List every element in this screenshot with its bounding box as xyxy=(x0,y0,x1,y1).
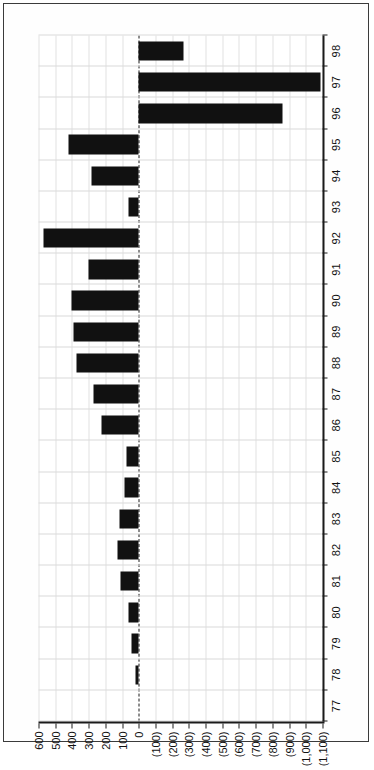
bar-92 xyxy=(43,228,138,247)
value-label-wrap: (100) xyxy=(149,731,161,770)
category-label-79: 79 xyxy=(329,627,341,658)
value-label-300: 300 xyxy=(82,731,94,749)
value-tick xyxy=(289,723,290,728)
value-tick xyxy=(322,723,323,728)
value-label--1100: (1,100) xyxy=(316,731,328,766)
value-label-wrap: (900) xyxy=(283,731,295,770)
value-label-600: 600 xyxy=(32,731,44,749)
category-tick xyxy=(322,408,327,409)
category-tick xyxy=(322,346,327,347)
value-label-wrap: (800) xyxy=(266,731,278,770)
value-tick xyxy=(188,723,189,728)
value-label--500: (500) xyxy=(216,731,228,757)
bar-86 xyxy=(101,415,138,434)
category-label-78: 78 xyxy=(329,659,341,690)
category-label-90: 90 xyxy=(329,284,341,315)
value-label-wrap: 100 xyxy=(116,731,128,770)
value-label--400: (400) xyxy=(199,731,211,757)
value-label-wrap: 400 xyxy=(65,731,77,770)
value-label-wrap: 0 xyxy=(132,731,144,770)
category-gridline xyxy=(38,439,322,440)
bar-97 xyxy=(138,72,320,91)
category-label-89: 89 xyxy=(329,316,341,347)
category-tick xyxy=(322,128,327,129)
category-label-98: 98 xyxy=(329,35,341,66)
category-label-93: 93 xyxy=(329,191,341,222)
category-label-96: 96 xyxy=(329,97,341,128)
value-label-200: 200 xyxy=(99,731,111,749)
category-gridline xyxy=(38,346,322,347)
value-tick xyxy=(138,723,139,728)
category-gridline xyxy=(38,377,322,378)
value-label--300: (300) xyxy=(182,731,194,757)
value-label--100: (100) xyxy=(149,731,161,757)
category-tick xyxy=(322,564,327,565)
category-label-94: 94 xyxy=(329,160,341,191)
value-label-0: 0 xyxy=(132,731,144,737)
value-label--900: (900) xyxy=(283,731,295,757)
value-label-wrap: (1,100) xyxy=(316,731,328,770)
category-label-83: 83 xyxy=(329,503,341,534)
value-label--200: (200) xyxy=(166,731,178,757)
value-tick xyxy=(155,723,156,728)
category-gridline xyxy=(38,533,322,534)
value-label--800: (800) xyxy=(266,731,278,757)
value-tick xyxy=(255,723,256,728)
category-tick xyxy=(322,626,327,627)
category-gridline xyxy=(38,221,322,222)
value-label--700: (700) xyxy=(249,731,261,757)
bar-87 xyxy=(93,384,138,403)
bar-98 xyxy=(138,41,182,60)
category-tick xyxy=(322,502,327,503)
value-tick xyxy=(238,723,239,728)
category-label-77: 77 xyxy=(329,690,341,721)
category-label-88: 88 xyxy=(329,347,341,378)
bar-78 xyxy=(135,665,138,684)
category-label-84: 84 xyxy=(329,472,341,503)
bar-84 xyxy=(124,477,138,496)
bar-83 xyxy=(119,509,138,528)
bar-80 xyxy=(128,602,138,621)
category-label-91: 91 xyxy=(329,253,341,284)
bar-93 xyxy=(128,197,138,216)
category-label-97: 97 xyxy=(329,66,341,97)
value-tick xyxy=(272,723,273,728)
value-tick xyxy=(55,723,56,728)
category-gridline xyxy=(38,408,322,409)
value-label-wrap: (300) xyxy=(182,731,194,770)
category-tick xyxy=(322,533,327,534)
value-label-400: 400 xyxy=(65,731,77,749)
value-label--1000: (1,000) xyxy=(299,731,311,766)
value-label-wrap: 500 xyxy=(49,731,61,770)
bar-79 xyxy=(131,633,139,652)
value-label-wrap: (700) xyxy=(249,731,261,770)
value-tick xyxy=(88,723,89,728)
category-tick xyxy=(322,283,327,284)
plot-area xyxy=(38,35,322,721)
bar-90 xyxy=(71,290,138,309)
value-label--600: (600) xyxy=(232,731,244,757)
value-label-wrap: (500) xyxy=(216,731,228,770)
value-label-wrap: 600 xyxy=(32,731,44,770)
bar-82 xyxy=(117,540,139,559)
category-tick xyxy=(322,252,327,253)
category-gridline xyxy=(38,595,322,596)
category-gridline xyxy=(38,190,322,191)
value-label-500: 500 xyxy=(49,731,61,749)
value-tick xyxy=(222,723,223,728)
bar-96 xyxy=(138,103,282,122)
category-tick xyxy=(322,34,327,35)
category-tick xyxy=(322,720,327,721)
category-label-86: 86 xyxy=(329,409,341,440)
category-label-81: 81 xyxy=(329,565,341,596)
category-gridline xyxy=(38,564,322,565)
category-label-95: 95 xyxy=(329,129,341,160)
category-tick xyxy=(322,689,327,690)
category-label-87: 87 xyxy=(329,378,341,409)
category-gridline xyxy=(38,502,322,503)
category-tick xyxy=(322,159,327,160)
bar-89 xyxy=(73,322,138,341)
category-label-82: 82 xyxy=(329,534,341,565)
category-tick xyxy=(322,190,327,191)
category-label-92: 92 xyxy=(329,222,341,253)
